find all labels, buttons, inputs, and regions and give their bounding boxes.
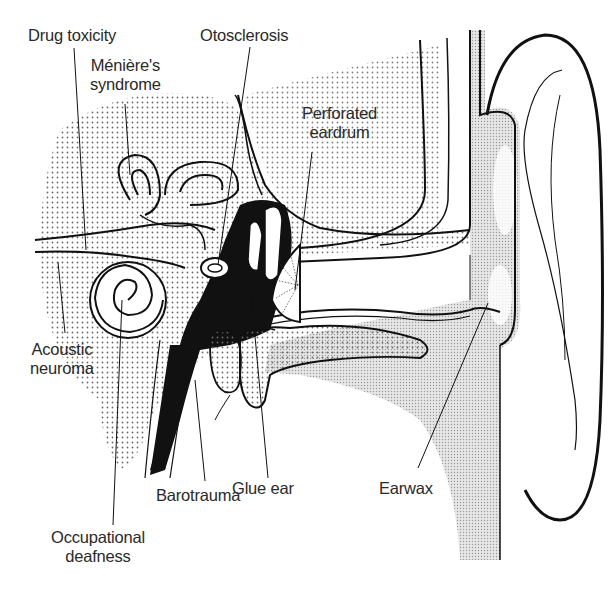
label-acoustic-neuroma: Acoustic neuroma [30,340,94,378]
label-drug-toxicity: Drug toxicity [28,26,116,45]
label-menieres-syndrome: Ménière's syndrome [90,56,161,94]
label-text: Glue ear [232,479,294,498]
label-text: syndrome [90,75,161,94]
label-text: Earwax [379,479,433,498]
cochlea [90,262,166,338]
label-text: Perforated [302,104,377,123]
label-perforated-eardrum: Perforated eardrum [302,104,377,142]
label-text: Acoustic [30,340,94,359]
label-text: Barotrauma [156,486,240,505]
label-text: Ménière's [90,56,161,75]
label-text: neuroma [30,359,94,378]
label-text: Otosclerosis [200,26,288,45]
label-text: Occupational [51,528,145,547]
label-text: Drug toxicity [28,26,116,45]
label-text: eardrum [302,123,377,142]
label-glue-ear: Glue ear [232,479,294,498]
label-occupational-deafness: Occupational deafness [51,528,145,566]
label-earwax: Earwax [379,479,433,498]
label-otosclerosis: Otosclerosis [200,26,288,45]
label-barotrauma: Barotrauma [156,486,240,505]
label-text: deafness [51,547,145,566]
